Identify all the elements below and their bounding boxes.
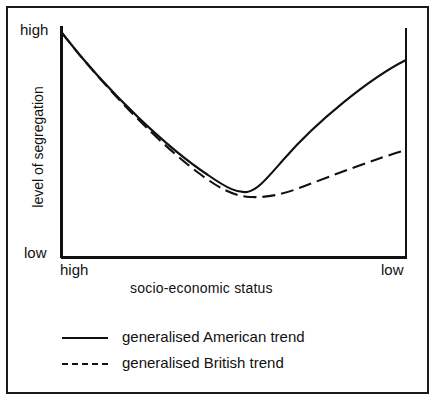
x-axis-tick-high: high [60, 262, 88, 277]
legend-swatch-solid-line-icon [62, 337, 108, 339]
chart-legend: generalised American trend generalised B… [60, 328, 400, 380]
y-axis-title: level of segregation [31, 67, 45, 227]
figure-container: high low level of segregation high low s… [0, 0, 438, 403]
legend-swatch-dashed-line-icon [62, 363, 108, 365]
x-axis-tick-low: low [381, 262, 404, 277]
x-axis-title: socio-economic status [130, 281, 273, 295]
y-axis-tick-low: low [24, 245, 47, 260]
legend-item-british: generalised British trend [60, 354, 400, 380]
legend-label-american: generalised American trend [122, 328, 305, 345]
legend-item-american: generalised American trend [60, 328, 400, 354]
legend-label-british: generalised British trend [122, 354, 284, 371]
y-axis-tick-high: high [20, 22, 48, 37]
